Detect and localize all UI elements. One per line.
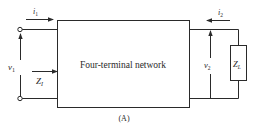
v2-label: v2 <box>204 60 211 71</box>
input-top-terminal-icon <box>18 27 22 31</box>
i1-label: i1 <box>33 7 38 17</box>
zi-label: ZI <box>36 76 44 87</box>
v1-label: v1 <box>8 62 15 73</box>
figure-caption: (A) <box>118 114 129 123</box>
i2-label: i2 <box>218 8 223 18</box>
input-bottom-terminal-icon <box>18 96 22 100</box>
four-terminal-network-diagram: Four-terminal network v1 i1 ZI ZL v2 i2 … <box>0 0 261 131</box>
network-label: Four-terminal network <box>80 60 166 70</box>
